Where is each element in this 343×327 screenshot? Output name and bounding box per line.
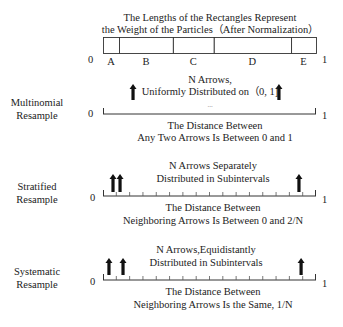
stratified-zero-label: 0	[90, 192, 95, 204]
systematic-one-label: 1	[322, 278, 327, 290]
segment-label-c: C	[190, 56, 197, 68]
stratified-arrow-icon	[110, 174, 117, 192]
systematic-bottom-line2: Neighboring Arrows Is the Same, 1/N	[133, 299, 292, 311]
systematic-top-line1: N Arrows,Equidistantly	[156, 244, 256, 256]
multinomial-bottom-line2: Any Two Arrows Is Between 0 and 1	[137, 132, 293, 144]
systematic-top-line2: Distributed in Subintervals	[149, 257, 262, 269]
weight-rect-c	[173, 38, 214, 54]
stratified-name-line2: Resample	[16, 193, 57, 206]
weight-rect-d	[214, 38, 291, 54]
weights-one-label: 1	[322, 54, 327, 66]
multinomial-name: Multinomial Resample	[11, 96, 64, 122]
systematic-name-line2: Resample	[14, 278, 60, 291]
weight-rect-a	[104, 38, 120, 54]
stratified-one-label: 1	[322, 194, 327, 206]
systematic-arrow-icon	[105, 258, 112, 275]
multinomial-ellipsis: ...	[207, 99, 212, 111]
multinomial-arrow-icon	[130, 84, 137, 100]
systematic-zero-label: 0	[90, 276, 95, 288]
multinomial-top-line2: Uniformly Distributed on（0, 1]	[142, 86, 279, 98]
segment-label-b: B	[142, 56, 149, 68]
stratified-top-line2: Distributed in Subintervals	[156, 173, 269, 185]
multinomial-top-line1: N Arrows,	[188, 74, 232, 86]
multinomial-bottom-line1: The Distance Between	[167, 120, 262, 132]
systematic-bottom-line1: The Distance Between	[165, 286, 260, 298]
segment-label-d: D	[249, 56, 257, 68]
stratified-arrow-icon	[117, 174, 124, 192]
systematic-name-line1: Systematic	[14, 265, 60, 278]
multinomial-name-line2: Resample	[11, 109, 64, 122]
weights-zero-label: 0	[88, 54, 93, 66]
systematic-arrow-icon	[298, 258, 305, 275]
multinomial-zero-label: 0	[88, 108, 93, 120]
systematic-name: Systematic Resample	[14, 265, 60, 291]
stratified-bottom-line2: Neighboring Arrows Is Between 0 and 2/N	[123, 215, 303, 227]
segment-label-e: E	[300, 56, 306, 68]
stratified-top-line1: N Arrows Separately	[169, 160, 257, 172]
weight-rect-e	[292, 38, 317, 54]
weight-rect-b	[119, 38, 173, 54]
multinomial-one-label: 1	[322, 110, 327, 122]
stratified-name: Stratified Resample	[16, 180, 57, 206]
multinomial-name-line1: Multinomial	[11, 96, 64, 109]
stratified-name-line1: Stratified	[16, 180, 57, 193]
stratified-bottom-line1: The Distance Between	[165, 202, 260, 214]
segment-label-a: A	[107, 56, 115, 68]
systematic-arrow-icon	[120, 258, 127, 275]
stratified-arrow-icon	[295, 174, 302, 192]
